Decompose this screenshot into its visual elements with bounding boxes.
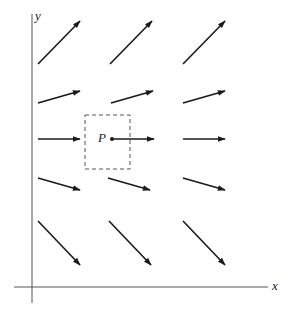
vector-arrow-icon: [183, 178, 225, 190]
vector-arrow-icon: [38, 21, 80, 64]
vector-arrow-icon: [38, 221, 80, 265]
vector-field-diagram: [0, 0, 292, 317]
y-axis-label: y: [35, 8, 41, 24]
dashed-box: [85, 115, 130, 169]
x-axis-label: x: [272, 278, 278, 294]
vector-arrow-icon: [38, 178, 80, 190]
vector-arrow-icon: [109, 221, 151, 265]
vector-arrow-icon: [38, 91, 80, 103]
vector-arrow-icon: [183, 221, 225, 265]
vector-arrow-icon: [111, 91, 153, 103]
point-p-label: P: [98, 130, 106, 146]
vector-arrow-icon: [183, 21, 225, 64]
vector-arrow-icon: [108, 178, 150, 190]
arrow-group: [38, 21, 225, 265]
vector-arrow-icon: [183, 91, 225, 103]
vector-arrow-icon: [110, 21, 152, 64]
